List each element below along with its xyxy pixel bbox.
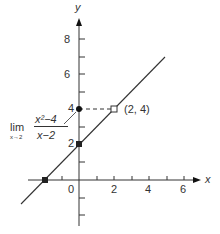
x-tick-0: 0: [68, 184, 74, 195]
graph-canvas: [0, 0, 220, 234]
fraction-bar: [34, 126, 68, 127]
y-tick-8: 8: [64, 34, 70, 45]
point-0-4: [76, 106, 82, 112]
x-tick-2: 2: [111, 184, 117, 195]
x-tick-4: 4: [145, 184, 151, 195]
y-axis: [76, 18, 85, 226]
limit-graph: y x 8 6 4 2 0 2 4 6 (2, 4) lim x→2 x²−4 …: [0, 0, 220, 234]
lim-denominator: x−2: [37, 129, 55, 141]
lim-word: lim: [10, 121, 24, 133]
y-tick-4: 4: [68, 103, 74, 114]
point-label: (2, 4): [124, 104, 150, 115]
open-point-2-4: [111, 106, 117, 112]
lim-subscript: x→2: [10, 134, 22, 140]
x-tick-6: 6: [180, 184, 186, 195]
point-0-2: [76, 141, 82, 147]
x-axis: [28, 176, 201, 183]
point-neg2-0: [42, 177, 48, 183]
x-axis-label: x: [205, 174, 211, 185]
lim-numerator: x²−4: [35, 113, 57, 125]
y-tick-6: 6: [64, 69, 70, 80]
y-axis-arrow-icon: [76, 18, 82, 26]
x-axis-arrow-icon: [193, 177, 201, 183]
y-axis-label: y: [75, 2, 81, 13]
y-tick-2: 2: [68, 138, 74, 149]
